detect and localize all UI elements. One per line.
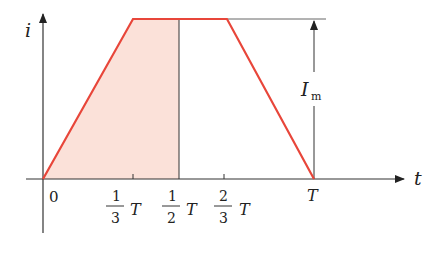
origin-label: 0 xyxy=(49,188,59,206)
tick-two-thirds-numerator: 2 xyxy=(219,188,228,204)
tick-third-denominator: 3 xyxy=(111,210,120,226)
tick-half-symbol: T xyxy=(186,200,198,219)
tick-third-numerator: 1 xyxy=(112,188,121,204)
tick-half-denominator: 2 xyxy=(167,210,176,226)
amplitude-subscript: m xyxy=(311,90,322,103)
tick-two-thirds-symbol: T xyxy=(239,200,251,219)
period-label: T xyxy=(307,186,319,205)
shaded-area xyxy=(43,19,179,179)
tick-half-numerator: 1 xyxy=(168,188,177,204)
waveform-diagram: i t 0 1 3 T 1 2 T 2 3 T T I m xyxy=(0,0,440,253)
x-axis-label: t xyxy=(414,167,422,189)
y-axis-label: i xyxy=(25,19,31,41)
diagram-canvas: i t 0 1 3 T 1 2 T 2 3 T T I m xyxy=(0,0,440,253)
tick-third-symbol: T xyxy=(130,200,142,219)
amplitude-label: I xyxy=(300,78,309,100)
tick-two-thirds-denominator: 3 xyxy=(219,210,228,226)
